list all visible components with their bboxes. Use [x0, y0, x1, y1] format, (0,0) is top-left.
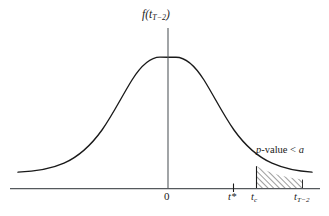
pvalue-annotation: p-value < a [256, 144, 304, 155]
pvalue-alpha-symbol: a [299, 144, 304, 155]
x-tick-label-t-c: tc [251, 191, 257, 204]
pvalue-shaded-tail [250, 160, 310, 192]
pvalue-text-rest: -value < [261, 144, 298, 155]
y-axis-label: f(tT−2) [142, 8, 170, 22]
t-distribution-plot [0, 0, 329, 216]
t-c-subscript: c [254, 196, 257, 204]
x-tick-label-zero: 0 [164, 190, 170, 202]
y-axis-label-base: f(t [142, 8, 152, 20]
t-T2-subscript: T−2 [297, 196, 310, 204]
x-tick-label-t-T-minus-2: tT−2 [294, 191, 310, 204]
y-axis-label-paren: ) [166, 8, 170, 20]
x-tick-label-t-star: t* [228, 191, 236, 202]
t-star-asterisk: * [231, 191, 236, 202]
figure-canvas: f(tT−2) 0 t* tc tT−2 p-value < a [0, 0, 329, 216]
y-axis-label-subscript: T−2 [152, 13, 166, 22]
